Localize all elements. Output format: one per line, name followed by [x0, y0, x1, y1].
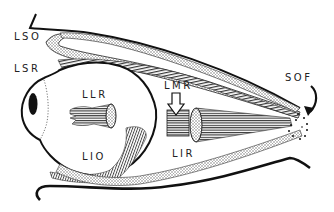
label-sof: SOF	[285, 73, 312, 83]
label-lir: LIR	[172, 149, 195, 159]
diagram-illustration	[0, 0, 334, 212]
eye-muscle-diagram: LSO LSR LLR LMR SOF LIO LIR	[0, 0, 334, 212]
pupil	[29, 93, 38, 115]
label-llr: LLR	[82, 90, 108, 100]
lateral-rectus-stump	[70, 104, 116, 128]
label-lsr: LSR	[14, 64, 40, 74]
label-lso: LSO	[14, 32, 41, 42]
label-lmr: LMR	[164, 81, 193, 91]
label-lio: LIO	[82, 152, 106, 162]
